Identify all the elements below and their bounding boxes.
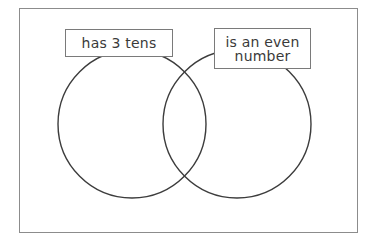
set-label-has-3-tens: has 3 tens	[65, 29, 173, 57]
set-label-even-number: is an even number	[214, 28, 311, 69]
venn-diagram	[0, 0, 377, 243]
set-label-text-line-1: is an even	[226, 35, 300, 49]
set-label-text: has 3 tens	[82, 37, 157, 50]
set-label-text-line-2: number	[235, 49, 291, 63]
